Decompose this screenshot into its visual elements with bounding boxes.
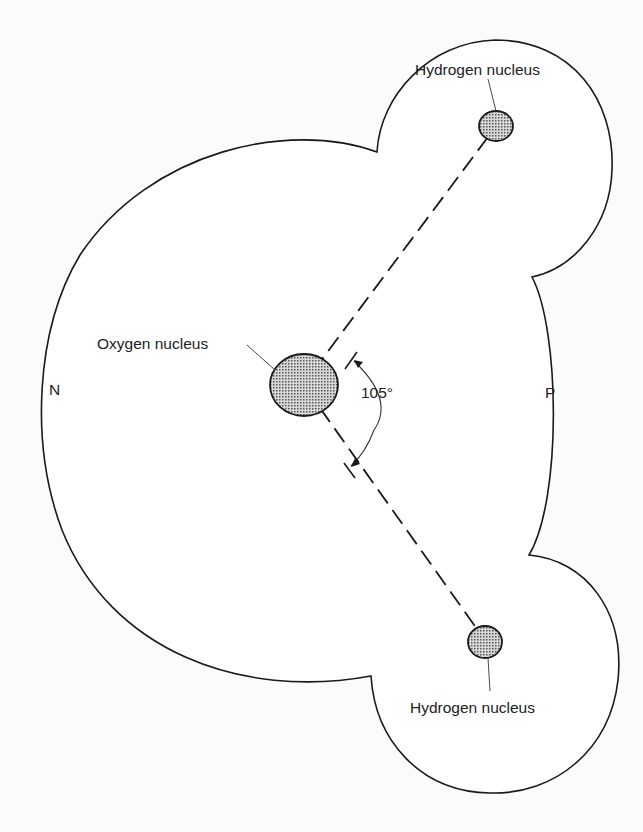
label-negative-pole: N xyxy=(49,381,60,398)
label-oxygen: Oxygen nucleus xyxy=(97,335,208,352)
hydrogen-nucleus-top xyxy=(479,111,513,141)
label-positive-pole: P xyxy=(545,384,555,401)
label-hydrogen-bottom: Hydrogen nucleus xyxy=(410,699,535,716)
oxygen-nucleus xyxy=(270,354,338,416)
label-bond-angle: 105° xyxy=(361,384,393,401)
water-molecule-diagram: Hydrogen nucleus Oxygen nucleus Hydrogen… xyxy=(0,0,643,832)
hydrogen-nucleus-bottom xyxy=(468,626,502,658)
label-hydrogen-top: Hydrogen nucleus xyxy=(415,61,540,78)
electron-cloud-outline xyxy=(41,40,618,793)
